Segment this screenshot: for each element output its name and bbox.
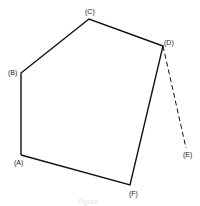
vertex-label-e: (E) bbox=[183, 151, 192, 159]
vertex-label-d: (D) bbox=[164, 39, 174, 47]
vertex-label-f: (F) bbox=[129, 190, 138, 198]
vertex-label-c: (C) bbox=[85, 8, 95, 16]
vertex-label-a: (A) bbox=[14, 159, 23, 167]
solid-polygon-edges bbox=[21, 19, 163, 185]
figure-caption: Figure bbox=[78, 198, 98, 206]
dashed-edge-d-e bbox=[163, 46, 186, 148]
polygon-diagram: (A) (B) (C) (D) (E) (F) Figure bbox=[0, 0, 200, 206]
vertex-label-b: (B) bbox=[8, 69, 17, 77]
